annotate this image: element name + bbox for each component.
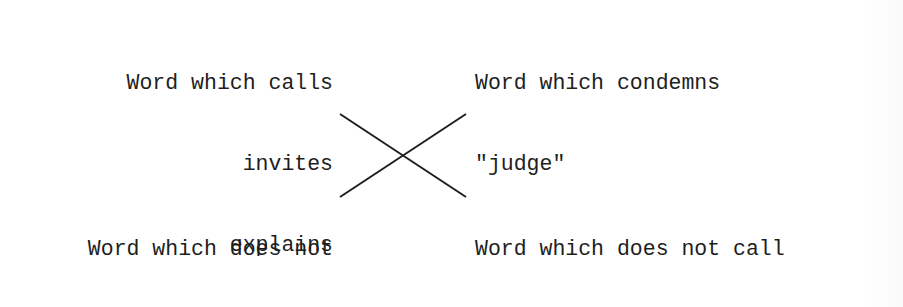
word-which-calls-label: Word which calls [62, 70, 333, 97]
word-which-does-not-call-label: Word which does not call [475, 236, 810, 263]
page-edge-shading [863, 0, 903, 307]
judge-example: "judge" [475, 151, 565, 178]
word-which-condemns-label: Word which condemns [475, 70, 720, 97]
word-which-does-not-label: Word which does not [88, 236, 333, 263]
spoiler-example-group: "fun-spoiler," "spoil-sport" [475, 263, 836, 307]
word-which-does-not-condemn-group: Word which does not condemn (which welco… [88, 182, 333, 307]
invites-label: invites [62, 151, 333, 178]
